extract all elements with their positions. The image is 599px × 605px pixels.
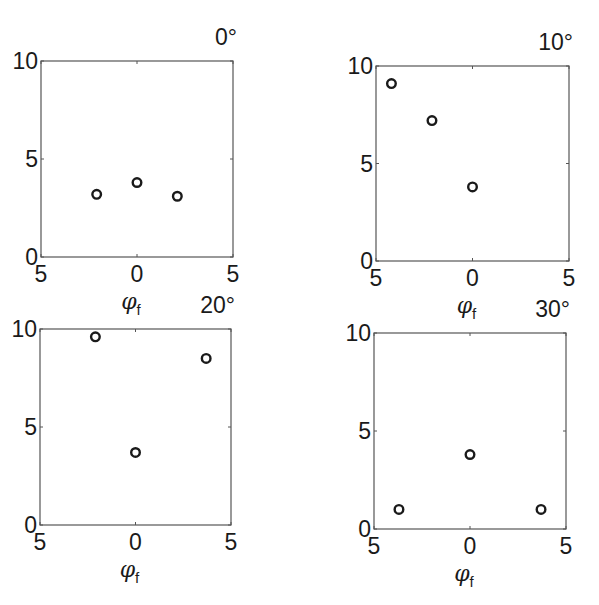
x-tick-label: 0: [464, 533, 477, 559]
data-point-marker: [173, 192, 182, 201]
panel-30: 30° 5050510φf: [345, 296, 572, 590]
data-point-marker: [92, 190, 101, 199]
y-tick-label: 0: [24, 512, 37, 538]
x-axis-label-subscript: f: [137, 301, 142, 318]
axes-box: [376, 66, 569, 261]
y-tick-label: 0: [358, 516, 371, 542]
y-tick-label: 10: [12, 48, 38, 74]
x-axis-label: φf: [454, 561, 474, 590]
y-tick-label: 0: [25, 244, 38, 270]
y-tick-label: 5: [24, 414, 37, 440]
panel-title: 0°: [215, 24, 237, 50]
x-tick-label: 5: [563, 265, 576, 291]
data-point-marker: [537, 505, 546, 514]
x-axis-label: φf: [120, 557, 140, 586]
x-axis-label-subscript: f: [470, 573, 475, 590]
data-point-marker: [395, 505, 404, 514]
axes-box: [41, 61, 233, 257]
x-axis-label: φf: [121, 289, 141, 318]
x-axis-label-subscript: f: [135, 569, 140, 586]
data-point-marker: [428, 116, 437, 125]
x-tick-label: 5: [560, 533, 573, 559]
y-tick-label: 5: [360, 151, 373, 177]
y-tick-label: 5: [25, 146, 38, 172]
x-tick-label: 0: [131, 261, 144, 287]
panel-20: 20° 5050510φf: [11, 292, 237, 586]
axes-box: [374, 333, 566, 529]
y-tick-label: 5: [358, 418, 371, 444]
x-axis-label: φf: [457, 293, 477, 322]
data-point-marker: [387, 79, 396, 88]
panel-0: 0° 5050510φf: [12, 24, 239, 318]
y-tick-label: 10: [347, 53, 373, 79]
panel-10: 10° 5050510φf: [347, 29, 575, 322]
figure: 0° 5050510φf 10° 5050510φf 20° 5050510φf…: [0, 0, 599, 605]
y-tick-label: 10: [11, 316, 37, 342]
data-point-marker: [91, 333, 100, 342]
data-point-marker: [133, 178, 142, 187]
data-point-marker: [131, 448, 140, 457]
x-axis-label-subscript: f: [472, 305, 477, 322]
panel-title: 10°: [538, 29, 573, 55]
data-point-marker: [202, 354, 211, 363]
data-point-marker: [468, 183, 477, 192]
panel-title: 30°: [535, 296, 570, 322]
data-point-marker: [466, 450, 475, 459]
x-tick-label: 5: [225, 529, 238, 555]
y-tick-label: 0: [360, 248, 373, 274]
x-tick-label: 0: [129, 529, 142, 555]
x-tick-label: 5: [227, 261, 240, 287]
y-tick-label: 10: [345, 320, 371, 346]
x-tick-label: 0: [466, 265, 479, 291]
panel-title: 20°: [200, 292, 235, 318]
